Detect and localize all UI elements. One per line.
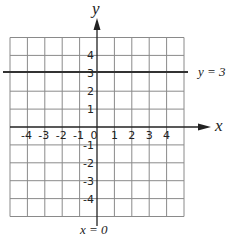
y-tick-label: 1 <box>87 103 94 116</box>
x-tick-label: 3 <box>146 129 153 142</box>
x-axis-label: x <box>215 116 223 136</box>
y-tick-label: 2 <box>87 85 94 98</box>
y-tick-label: 3 <box>87 67 94 80</box>
x-tick-label: -4 <box>21 129 32 142</box>
y-tick-label: -3 <box>83 175 94 188</box>
y-tick-label: -2 <box>83 157 94 170</box>
y-axis-arrow-icon <box>94 18 101 30</box>
y-tick-label: 4 <box>87 49 94 62</box>
x-tick-label: -2 <box>56 129 67 142</box>
y-tick-label: -1 <box>83 139 94 152</box>
line-label-text: y = 3 <box>198 64 226 79</box>
x-tick-label: 4 <box>163 129 170 142</box>
x-axis-arrow-icon <box>198 124 211 131</box>
y-axis-label: y <box>92 0 100 19</box>
y-tick-label: -4 <box>83 193 94 206</box>
line-label-text: x = 0 <box>80 222 108 237</box>
line-label-x-equals-0: x = 0 <box>80 222 108 238</box>
coordinate-plane: -4-3-2-1012344321-1-2-3-4 y x y = 3 x = … <box>0 0 229 239</box>
graph-svg: -4-3-2-1012344321-1-2-3-4 <box>0 0 229 239</box>
x-tick-label: 1 <box>111 129 118 142</box>
x-tick-label: 2 <box>128 129 135 142</box>
line-label-y-equals-3: y = 3 <box>198 64 226 80</box>
x-tick-label: -3 <box>38 129 49 142</box>
